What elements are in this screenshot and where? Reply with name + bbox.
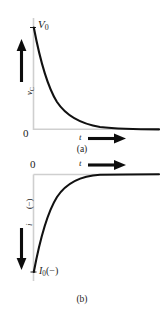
caption-b: (b) <box>0 294 164 304</box>
chart-panel-b: 0 t (−) i I0(−) (b) <box>0 156 164 313</box>
x-axis-arrow-a <box>88 134 126 144</box>
label-x-axis-b: t <box>79 159 82 168</box>
rise-curve-b <box>34 174 159 272</box>
caption-a: (a) <box>0 144 164 154</box>
label-i0-b: I0(−) <box>39 266 58 278</box>
figure-root: V0 0 vC t (a) <box>0 0 164 313</box>
label-y-axis-a: vC <box>25 87 35 95</box>
y-axis-arrow-a <box>17 39 27 82</box>
decay-curve-a <box>34 28 159 130</box>
label-origin-b: 0 <box>30 159 36 170</box>
chart-panel-a: V0 0 vC t (a) <box>0 0 164 156</box>
label-origin-a: 0 <box>23 128 29 139</box>
label-x-axis-a: t <box>79 133 82 142</box>
label-y-axis-b: i <box>25 223 34 226</box>
y-axis-arrow-b <box>17 228 27 270</box>
plot-b-graphics <box>0 156 164 313</box>
label-negative-sign-b: (−) <box>25 199 34 209</box>
label-v0-a: V0 <box>38 19 49 32</box>
x-axis-arrow-b <box>88 160 126 170</box>
